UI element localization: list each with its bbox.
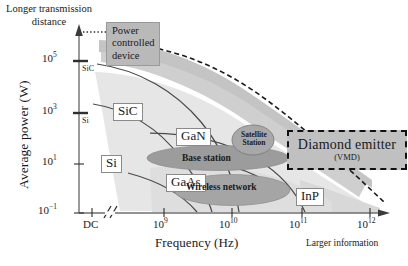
application-label-wireless-network: Wireless network bbox=[186, 182, 257, 192]
y-tick-label-1e5: 105 bbox=[42, 53, 57, 65]
top-note-line1: Longer transmission bbox=[6, 3, 92, 16]
application-label-base-station: Base station bbox=[182, 153, 231, 163]
power-callout-line1: Power bbox=[112, 25, 155, 37]
power-callout-line3: device bbox=[112, 50, 155, 62]
larger-information-note: Larger information bbox=[306, 238, 378, 248]
y-tick-label-1e1: 101 bbox=[42, 156, 57, 168]
power-controlled-device-callout: Power controlled device bbox=[106, 22, 160, 66]
diamond-emitter-callout: Diamond emitter (VMD) bbox=[287, 130, 407, 170]
y-tick-label-1e3: 103 bbox=[42, 105, 57, 117]
x-tick-label-1e11: 1011 bbox=[289, 219, 307, 231]
satellite-label-line2: Station bbox=[235, 139, 273, 147]
material-label-inp: InP bbox=[296, 188, 324, 206]
power-callout-line2: controlled bbox=[112, 37, 155, 49]
x-axis-title: Frequency (Hz) bbox=[155, 236, 238, 250]
material-label-sic: SiC bbox=[113, 103, 143, 121]
y-axis-title: Average power (W) bbox=[16, 80, 32, 189]
application-label-satellite-station: Satellite Station bbox=[235, 131, 273, 148]
x-tick-label-1e12: 1012 bbox=[357, 219, 376, 231]
y-side-note-sic: SiC bbox=[82, 65, 94, 74]
y-side-note-si: Si bbox=[82, 117, 89, 126]
y-tick-label-1em1: 10−1 bbox=[38, 205, 57, 217]
x-tick-label-dc: DC bbox=[83, 219, 98, 231]
x-tick-label-1e9: 109 bbox=[153, 219, 168, 231]
x-axis-arrowhead bbox=[378, 209, 390, 216]
diamond-emitter-subtitle: (VMD) bbox=[334, 153, 360, 162]
x-axis-break-mask bbox=[105, 211, 115, 214]
diamond-emitter-title: Diamond emitter bbox=[298, 138, 396, 153]
longer-transmission-distance-note: Longer transmission distance bbox=[6, 3, 92, 29]
x-tick-label-1e10: 1010 bbox=[219, 219, 238, 231]
material-label-si: Si bbox=[101, 155, 122, 173]
y-axis-ticks bbox=[73, 61, 88, 213]
figure-semiconductor-power-frequency: Longer transmission distance Average pow… bbox=[0, 0, 408, 266]
material-label-gan: GaN bbox=[176, 128, 211, 146]
top-note-line2: distance bbox=[6, 16, 92, 29]
